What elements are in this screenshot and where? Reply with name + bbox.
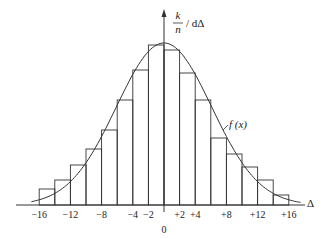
histogram-bar bbox=[70, 165, 86, 205]
x-tick-label: +16 bbox=[281, 209, 297, 220]
curve-label: f (x) bbox=[229, 118, 247, 131]
x-tick-label: −16 bbox=[31, 209, 47, 220]
y-label-suffix: / dΔ bbox=[186, 17, 204, 29]
x-tick-label: +12 bbox=[250, 209, 266, 220]
x-tick-label: −8 bbox=[96, 209, 107, 220]
x-tick-label: −12 bbox=[63, 209, 79, 220]
histogram-bar bbox=[86, 149, 102, 205]
x-axis-label: Δ bbox=[307, 197, 314, 209]
y-label-numerator: k bbox=[176, 9, 182, 21]
histogram-chart: −16−12−8−4−2+2+4+8+12+16 0 Δ k n / dΔ f … bbox=[0, 0, 324, 239]
x-tick-label: +2 bbox=[174, 209, 185, 220]
histogram-bar bbox=[164, 50, 180, 205]
histogram-bar bbox=[226, 154, 242, 205]
curve-label-leader bbox=[223, 125, 228, 130]
x-tick-label: +4 bbox=[190, 209, 201, 220]
x-tick-label: −4 bbox=[127, 209, 138, 220]
histogram-bar bbox=[180, 73, 196, 205]
histogram-bar bbox=[148, 45, 164, 205]
density-curve bbox=[31, 43, 300, 202]
histogram-bar bbox=[133, 70, 149, 205]
y-axis-arrow-icon bbox=[162, 9, 167, 17]
histogram-bar bbox=[195, 100, 211, 205]
x-tick-label: +8 bbox=[221, 209, 232, 220]
y-label-denominator: n bbox=[175, 23, 181, 35]
x-tick-label: −2 bbox=[143, 209, 154, 220]
origin-label: 0 bbox=[162, 224, 167, 235]
histogram-bar bbox=[102, 130, 118, 205]
histogram-bar bbox=[117, 100, 133, 205]
histogram-bar bbox=[273, 195, 289, 205]
histogram-bar bbox=[211, 138, 227, 205]
